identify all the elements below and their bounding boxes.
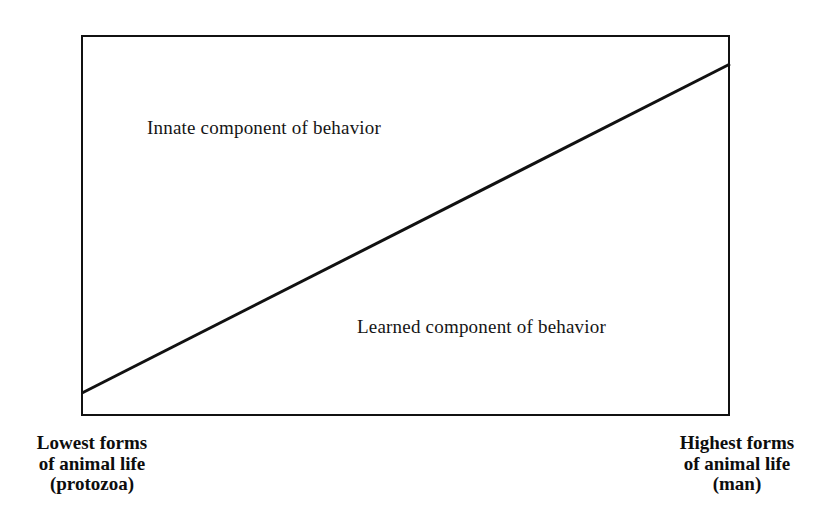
learned-region-label: Learned component of behavior: [357, 317, 606, 336]
behavior-components-figure: Innate component of behavior Learned com…: [0, 0, 822, 523]
plot-frame: [81, 35, 730, 416]
left-caption-line-1: Lowest forms: [12, 433, 172, 454]
left-caption-line-3: (protozoa): [12, 474, 172, 495]
left-caption-line-2: of animal life: [12, 454, 172, 475]
right-caption-line-3: (man): [657, 474, 817, 495]
right-axis-caption: Highest forms of animal life (man): [657, 433, 817, 495]
left-axis-caption: Lowest forms of animal life (protozoa): [12, 433, 172, 495]
right-caption-line-1: Highest forms: [657, 433, 817, 454]
right-caption-line-2: of animal life: [657, 454, 817, 475]
innate-region-label: Innate component of behavior: [147, 118, 381, 137]
